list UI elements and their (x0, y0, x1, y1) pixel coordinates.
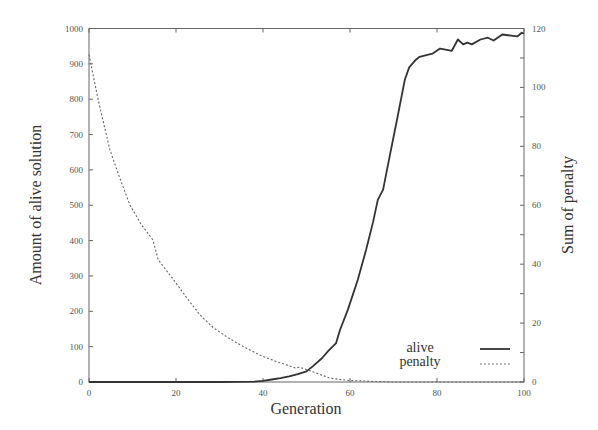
y2-tick-label: 20 (532, 318, 542, 328)
y-tick-label: 400 (70, 236, 84, 246)
y2-tick-label: 120 (532, 24, 546, 34)
y2-tick-label: 0 (532, 377, 537, 387)
x-tick-label: 40 (259, 388, 269, 398)
y-tick-label: 1000 (65, 24, 84, 34)
y-tick-label: 200 (70, 306, 84, 316)
y-tick-label: 500 (70, 200, 84, 210)
y-tick-label: 600 (70, 165, 84, 175)
x-axis-title: Generation (270, 400, 341, 417)
y2-tick-label: 60 (532, 200, 542, 210)
y-tick-label: 100 (70, 342, 84, 352)
x-tick-label: 100 (517, 388, 531, 398)
legend-label-penalty: penalty (399, 354, 440, 369)
legend: alive penalty (399, 340, 510, 369)
y-tick-label: 700 (70, 130, 84, 140)
y-tick-label: 800 (70, 94, 84, 104)
x-tick-label: 20 (172, 388, 182, 398)
legend-label-alive: alive (406, 340, 433, 355)
y-axis-title-left: Amount of alive solution (27, 125, 44, 285)
chart: 020406080100 010020030040050060070080090… (0, 0, 598, 430)
x-tick-label: 0 (87, 388, 92, 398)
y-tick-label: 900 (70, 59, 84, 69)
series-penalty-line (89, 55, 524, 382)
plot-frame (89, 29, 524, 383)
y-axis-title-right: Sum of penalty (559, 156, 577, 254)
y2-tick-label: 80 (532, 141, 542, 151)
x-axis-ticks: 020406080100 (87, 29, 532, 399)
series-alive-line (89, 33, 524, 382)
y2-tick-label: 100 (532, 82, 546, 92)
y-tick-label: 0 (79, 377, 84, 387)
y-tick-label: 300 (70, 271, 84, 281)
plot-border (89, 29, 524, 383)
y2-tick-label: 40 (532, 259, 542, 269)
x-tick-label: 60 (346, 388, 356, 398)
series-layer (89, 33, 524, 382)
x-tick-label: 80 (433, 388, 443, 398)
